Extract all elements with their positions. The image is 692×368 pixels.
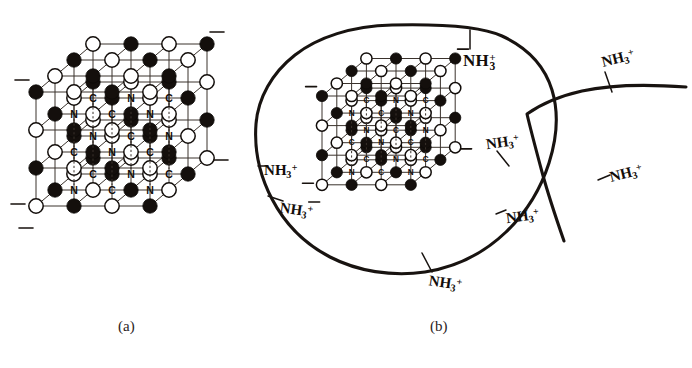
figure-root: NCCNNCCNNCCNNCCNNC NCCNNCCNNCCNNCCNNC NH…: [0, 0, 692, 368]
lattice-node-filled: [181, 167, 195, 181]
lattice-node-filled: [162, 69, 176, 83]
lattice-node-filled: [316, 150, 327, 161]
nh3-label: NH+3: [463, 52, 496, 71]
lattice-node-filled: [331, 107, 342, 118]
lattice-node-open: [420, 53, 431, 64]
lattice-node-open: [420, 167, 431, 178]
lattice-node-open: [331, 137, 342, 148]
lattice-node-open: [181, 129, 195, 143]
lattice-atom-label: N: [165, 130, 173, 142]
lattice-node-open: [390, 78, 401, 89]
lattice-node-open: [316, 179, 327, 190]
lattice-atom-label: C: [108, 108, 116, 120]
lattice-node-filled: [181, 91, 195, 105]
lattice-node-open: [361, 53, 372, 64]
lattice-atom-label: C: [70, 146, 78, 158]
lattice-node-filled: [390, 167, 401, 178]
lattice-atom-label: N: [70, 184, 78, 196]
lattice-atom-label: C: [423, 155, 429, 164]
lattice-atom-label: N: [146, 108, 154, 120]
lattice-node-filled: [435, 154, 446, 165]
lattice-node-filled: [376, 90, 387, 101]
nh3-base: NH: [428, 272, 453, 291]
lattice-node-filled: [124, 183, 138, 197]
nh3-base: NH: [485, 133, 510, 152]
secondary-membrane-curve: [527, 85, 686, 241]
lattice-node-filled: [143, 53, 157, 67]
lattice-node-filled: [29, 85, 43, 99]
lattice-node-open: [48, 69, 62, 83]
lattice-node-open: [29, 123, 43, 137]
lattice-node-open: [405, 90, 416, 101]
lattice-node-open: [376, 179, 387, 190]
lattice-atom-label: C: [393, 126, 399, 135]
lattice-atom-label: N: [408, 168, 414, 177]
nh3-subscript: 3: [286, 169, 291, 180]
lattice-atom-label: C: [378, 109, 384, 118]
lattice-node-open: [86, 183, 100, 197]
lattice-node-filled: [86, 69, 100, 83]
lattice-node-open: [331, 78, 342, 89]
lattice-atom-label: N: [70, 108, 78, 120]
lattice-node-open: [346, 90, 357, 101]
nh3-leader-line: [598, 175, 610, 180]
lattice-node-open: [316, 120, 327, 131]
lattice-atom-label: C: [363, 96, 369, 105]
lattice-node-open: [143, 85, 157, 99]
lattice-node-open: [200, 151, 214, 165]
lattice-atom-label: N: [127, 92, 135, 104]
lattice-atom-label: C: [378, 168, 384, 177]
lattice-atom-label: N: [363, 126, 369, 135]
lattice-node-filled: [48, 183, 62, 197]
lattice-node-open: [105, 199, 119, 213]
lattice-atom-label: C: [146, 146, 154, 158]
lattice-node-filled: [450, 112, 461, 123]
lattice-atom-label: N: [127, 168, 135, 180]
nh3-leader-line: [497, 151, 509, 166]
lattice-atom-label: C: [89, 168, 97, 180]
nh3-subscript: 3: [450, 282, 457, 294]
lattice-node-filled: [48, 107, 62, 121]
lattice-atom-label: N: [89, 130, 97, 142]
lattice-node-filled: [435, 95, 446, 106]
lattice-node-filled: [105, 85, 119, 99]
lattice-node-open: [361, 167, 372, 178]
nh3-subscript: 3: [490, 62, 496, 71]
lattice-node-filled: [29, 161, 43, 175]
lattice-node-open: [435, 65, 446, 76]
lattice-atom-label: N: [408, 109, 414, 118]
nh3-base: NH: [505, 207, 530, 226]
lattice-node-filled: [405, 179, 416, 190]
nh3-base: NH: [608, 164, 634, 185]
lattice-node-open: [86, 37, 100, 51]
lattice-node-open: [48, 145, 62, 159]
lattice-node-filled: [390, 53, 401, 64]
nh3-leader-line: [422, 253, 432, 272]
lattice-node-filled: [124, 37, 138, 51]
lattice-node-filled: [67, 53, 81, 67]
lattice-atom-label: N: [393, 96, 399, 105]
lattice-atom-label: N: [378, 138, 384, 147]
lattice-node-filled: [316, 90, 327, 101]
nh3-leader-line: [605, 72, 612, 92]
lattice-node-open: [162, 37, 176, 51]
lattice-atom-label: N: [393, 155, 399, 164]
lattice-node-filled: [143, 199, 157, 213]
lattice-atom-label: N: [146, 184, 154, 196]
figure-canvas: NCCNNCCNNCCNNCCNNC NCCNNCCNNCCNNCCNNC: [0, 0, 692, 368]
nh3-charge-stack: +3: [489, 53, 496, 72]
lattice-atom-label: C: [108, 184, 116, 196]
lattice-node-open: [105, 53, 119, 67]
nh3-label: NH3+: [264, 163, 297, 180]
lattice-node-filled: [450, 53, 461, 64]
lattice-node-filled: [67, 199, 81, 213]
lattice-node-open: [124, 69, 138, 83]
lattice-panel-b: NCCNNCCNNCCNNCCNNC: [303, 49, 472, 202]
lattice-node-filled: [420, 78, 431, 89]
lattice-node-filled: [361, 78, 372, 89]
nh3-base: NH: [279, 199, 304, 218]
lattice-atom-label: C: [408, 138, 414, 147]
lattice-node-filled: [331, 167, 342, 178]
lattice-atom-label: C: [423, 96, 429, 105]
caption-panel-a: (a): [118, 318, 135, 335]
